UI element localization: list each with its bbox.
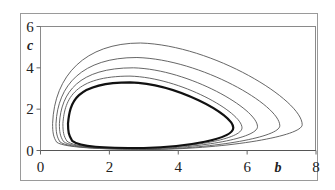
y-tick-label: 0 xyxy=(26,143,34,159)
y-tick-label: 6 xyxy=(26,19,34,35)
axes: 024680246 xyxy=(26,19,320,176)
x-axis-label: b xyxy=(275,160,282,175)
x-tick-label: 8 xyxy=(312,159,320,175)
x-tick-label: 4 xyxy=(175,159,183,175)
chart-canvas: 024680246 b c xyxy=(0,0,335,190)
y-axis-label: c xyxy=(27,38,34,53)
x-tick-label: 6 xyxy=(243,159,251,175)
orbit-curve xyxy=(53,43,303,150)
x-tick-label: 2 xyxy=(106,159,114,175)
orbit-curve xyxy=(63,76,242,148)
x-tick-label: 0 xyxy=(37,159,45,175)
orbit-bold-curve xyxy=(68,82,233,148)
orbit-curves xyxy=(53,43,303,150)
y-tick-label: 4 xyxy=(26,60,34,76)
phase-plane-chart: 024680246 b c xyxy=(0,0,335,190)
y-tick-label: 2 xyxy=(26,101,34,117)
figure-frame xyxy=(21,14,318,181)
